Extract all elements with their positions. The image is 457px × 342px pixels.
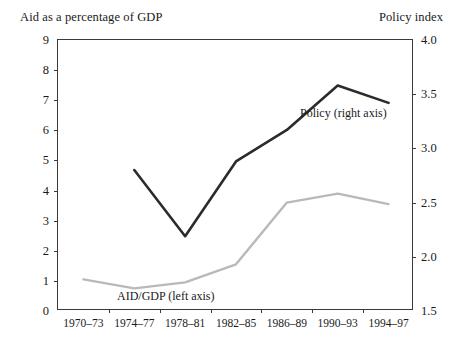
x-tick-label: 1982–85 [216,317,256,329]
x-tick-label: 1994–97 [368,317,408,329]
left-tick-label: 6 [43,123,49,138]
chart-root: Aid as a percentage of GDP Policy index … [0,0,457,342]
aidgdp-series-line [83,194,388,289]
right-tick-label: 2.0 [421,249,437,264]
right-tick-label: 2.5 [421,195,437,210]
x-tick-label: 1986–89 [267,317,307,329]
x-tick-label: 1970–73 [63,317,103,329]
left-tick-label: 3 [43,213,49,228]
policy-series-label: Policy (right axis) [300,106,387,121]
left-tick-label: 1 [43,273,49,288]
left-tick-label: 5 [43,153,49,168]
right-tick-label: 1.5 [421,304,437,319]
plot-area: 0123456789 1.52.02.53.03.54.0 1970–73197… [57,39,413,310]
left-axis-title: Aid as a percentage of GDP [20,10,162,25]
right-tick-label: 3.0 [421,141,437,156]
x-tick-label: 1978–81 [165,317,205,329]
left-tick-label: 0 [43,304,49,319]
aidgdp-series-label: AID/GDP (left axis) [117,289,215,304]
left-tick-label: 2 [43,243,49,258]
series-lines [58,40,414,311]
left-tick-label: 9 [43,33,49,48]
x-tick-label: 1974–77 [114,317,154,329]
right-tick-label: 3.5 [421,87,437,102]
left-tick-label: 7 [43,93,49,108]
left-tick-label: 8 [43,63,49,78]
x-tick-label: 1990–93 [318,317,358,329]
right-tick-label: 4.0 [421,33,437,48]
left-tick-label: 4 [43,183,49,198]
right-axis-title: Policy index [379,10,443,25]
